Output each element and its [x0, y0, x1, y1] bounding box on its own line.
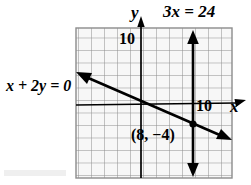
y-axis-label: y [131, 4, 139, 21]
intersection-point-marker [189, 120, 196, 127]
vertical-line-equation-label: 3x = 24 [163, 3, 215, 20]
scan-artifact [4, 170, 66, 176]
x-axis-label: x [230, 98, 239, 115]
x-axis-tick-label-10: 10 [196, 98, 212, 114]
intersection-point-label: (8, −4) [131, 127, 175, 143]
y-axis-tick-label-10: 10 [119, 31, 135, 47]
diagonal-line-equation-label: x + 2y = 0 [6, 78, 71, 94]
graph-figure: y x 10 10 3x = 24 x + 2y = 0 (8, −4) [0, 0, 251, 185]
